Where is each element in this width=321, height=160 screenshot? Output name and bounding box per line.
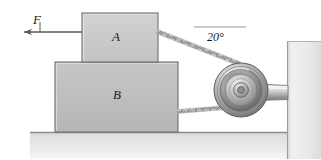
block-a xyxy=(82,13,158,62)
block-a-label: A xyxy=(112,30,120,43)
upper-rope xyxy=(157,32,240,65)
block-b-label: B xyxy=(113,88,121,101)
force-label: F xyxy=(33,13,41,26)
wall xyxy=(287,41,321,159)
pulley xyxy=(214,63,268,117)
physics-figure: A B F 20° xyxy=(0,0,321,159)
ground xyxy=(30,133,321,160)
figure-canvas xyxy=(0,0,321,159)
angle-label: 20° xyxy=(207,31,224,43)
